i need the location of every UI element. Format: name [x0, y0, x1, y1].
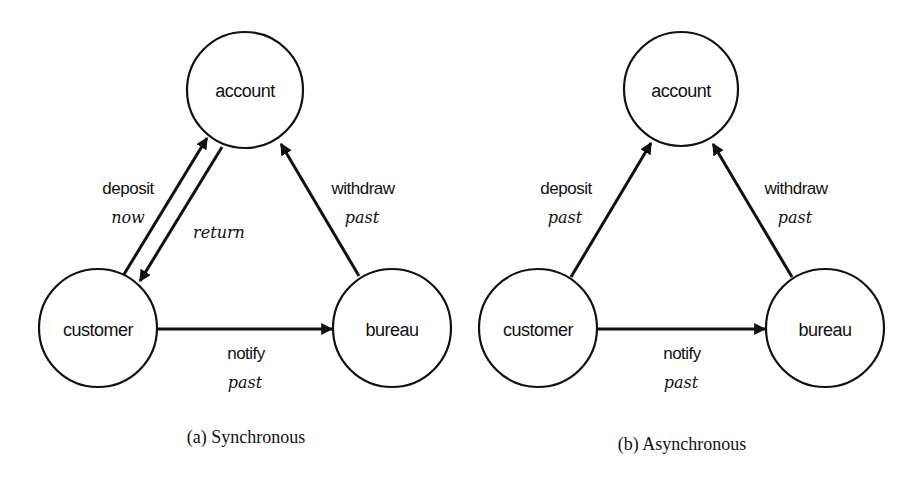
edge-withdraw-mode: past: [345, 208, 380, 227]
node-account-label: account: [215, 81, 275, 101]
caption-synchronous: (a) Synchronous: [187, 427, 305, 448]
node-account: account: [187, 32, 303, 148]
node-customer-label: customer: [63, 320, 134, 340]
diagram-synchronous: account customer bureau deposit now retu…: [39, 32, 451, 448]
edge-withdraw-mode: past: [778, 208, 813, 227]
diagram-asynchronous: account customer bureau deposit past wit…: [479, 32, 884, 455]
node-account-label: account: [651, 81, 711, 101]
edge-return: [140, 147, 222, 281]
edge-notify-label: notify: [227, 344, 266, 363]
edge-deposit: [123, 138, 207, 276]
diagram-canvas: account customer bureau deposit now retu…: [0, 0, 921, 478]
edge-deposit-mode: past: [548, 208, 583, 227]
edge-withdraw-label: withdraw: [763, 179, 828, 198]
edge-notify-mode: past: [228, 373, 263, 392]
node-bureau: bureau: [766, 269, 884, 387]
edge-notify-label: notify: [663, 344, 702, 363]
edge-notify-mode: past: [664, 373, 699, 392]
edge-deposit-label: deposit: [540, 179, 592, 198]
node-bureau-label: bureau: [365, 320, 418, 340]
node-customer-label: customer: [503, 320, 574, 340]
edge-return-label: return: [193, 223, 245, 242]
node-customer: customer: [39, 269, 157, 387]
node-bureau: bureau: [333, 269, 451, 387]
node-customer: customer: [479, 269, 597, 387]
edge-withdraw-label: withdraw: [330, 179, 395, 198]
caption-asynchronous: (b) Asynchronous: [618, 434, 747, 455]
node-bureau-label: bureau: [798, 320, 851, 340]
edge-deposit-mode: now: [111, 208, 145, 227]
node-account: account: [624, 32, 738, 146]
edge-deposit: [571, 143, 651, 277]
edge-deposit-label: deposit: [102, 179, 154, 198]
